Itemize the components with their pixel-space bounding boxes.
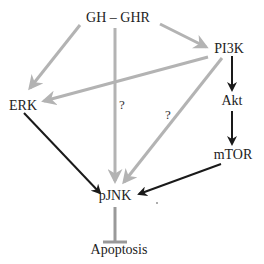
edge-gh-to-pi3k (160, 24, 206, 47)
inhibition-edge-pjnk-apoptosis (103, 207, 127, 242)
node-pjnk: pJNK (99, 188, 132, 203)
edge-gh-to-erk (30, 25, 80, 88)
node-erk: ERK (9, 98, 37, 113)
node-mtor: mTOR (214, 147, 253, 162)
stray-dot (156, 202, 158, 204)
node-akt: Akt (222, 93, 243, 108)
gray-edges (30, 24, 222, 182)
edge-mtor-to-pjnk (139, 164, 221, 194)
node-pi3k: PI3K (214, 41, 244, 56)
question-mark-pi3k-pjnk: ? (165, 107, 171, 122)
node-apoptosis: Apoptosis (91, 242, 148, 257)
edge-erk-to-pjnk (24, 113, 100, 193)
signaling-pathway-diagram: GH – GHR PI3K ERK Akt mTOR pJNK Apoptosi… (0, 0, 264, 264)
node-gh-ghr: GH – GHR (86, 10, 150, 25)
question-mark-gh-pjnk: ? (119, 97, 125, 112)
edge-pi3k-to-erk (44, 57, 208, 101)
black-edges (24, 56, 232, 194)
